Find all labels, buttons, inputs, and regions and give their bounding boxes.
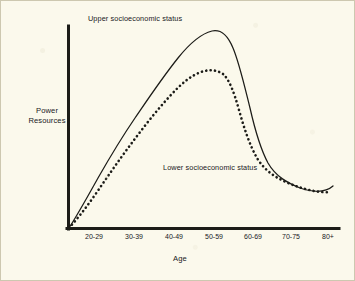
y-axis-title-line-2: Resources <box>22 116 72 126</box>
y-axis-title-line-1: Power <box>22 106 72 116</box>
x-tick-label-6: 80+ <box>322 233 334 240</box>
x-axis-title: Age <box>150 254 210 264</box>
lower-series-label: Lower socioeconomic status <box>163 163 257 172</box>
upper-series-label: Upper socioeconomic status <box>88 14 182 23</box>
x-tick-label-2: 40-49 <box>165 233 183 240</box>
chart-figure: Power Resources Age Upper socioeconomic … <box>0 0 355 281</box>
x-tick-label-4: 60-69 <box>244 233 262 240</box>
x-tick-label-3: 50-59 <box>205 233 223 240</box>
y-axis-title: Power Resources <box>22 106 72 125</box>
x-tick-label-1: 30-39 <box>125 233 143 240</box>
x-tick-label-5: 70-75 <box>282 233 300 240</box>
x-tick-label-0: 20-29 <box>85 233 103 240</box>
